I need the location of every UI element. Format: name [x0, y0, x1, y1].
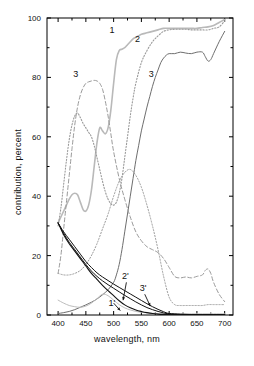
data-curve: [58, 294, 225, 314]
curve-label: 2: [135, 34, 140, 44]
curve-label: 3: [149, 69, 154, 79]
line-chart: 40045050055060065070002040608010012331'2…: [0, 0, 254, 366]
x-axis-title: wavelength, nm: [0, 334, 254, 344]
curve-label: 2': [122, 271, 129, 281]
curves-group: [58, 19, 225, 314]
y-tick-label: 0: [37, 311, 42, 320]
x-tick-label: 400: [51, 319, 65, 328]
x-tick-label: 650: [190, 319, 204, 328]
y-tick-label: 80: [32, 73, 41, 82]
x-tick-label: 700: [218, 319, 232, 328]
y-tick-label: 100: [28, 14, 42, 23]
x-tick-label: 600: [162, 319, 176, 328]
chart-figure: 40045050055060065070002040608010012331'2…: [0, 0, 254, 366]
y-tick-label: 40: [32, 192, 41, 201]
curve-label: 3: [73, 69, 78, 79]
data-curve: [58, 19, 225, 222]
x-tick-label: 500: [107, 319, 121, 328]
y-tick-label: 20: [32, 252, 41, 261]
data-curve: [58, 31, 225, 313]
annotation-arrowhead: [122, 297, 125, 300]
curve-label: 1': [109, 298, 116, 308]
curve-label: 1: [109, 25, 114, 35]
y-axis-title: contribution, percent: [13, 92, 23, 252]
data-curve: [58, 223, 225, 315]
curve-label: 3': [140, 283, 147, 293]
x-tick-label: 550: [135, 319, 149, 328]
y-tick-label: 60: [32, 133, 41, 142]
x-tick-label: 450: [79, 319, 93, 328]
